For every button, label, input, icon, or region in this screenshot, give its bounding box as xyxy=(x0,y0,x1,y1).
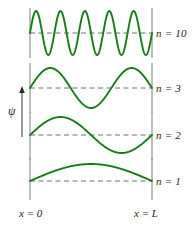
panel-label-n10: n = 10 xyxy=(156,28,187,39)
panel-label-n2: n = 2 xyxy=(156,130,181,141)
wavefunction-figure: n = 10 n = 3 n = 2 n = 1 ψ x = 0 x = L xyxy=(0,0,195,229)
x-axis-label-left: x = 0 xyxy=(19,208,42,219)
psi-arrow-head xyxy=(19,86,25,93)
psi-axis-arrow xyxy=(19,86,25,137)
panel-label-n1: n = 1 xyxy=(156,176,181,187)
wavefunctions-layer xyxy=(30,11,152,181)
psi-axis-label: ψ xyxy=(8,105,15,117)
panel-label-n3: n = 3 xyxy=(156,83,181,94)
wavefunction-panel-n1 xyxy=(30,164,152,181)
x-axis-label-right: x = L xyxy=(134,208,158,219)
